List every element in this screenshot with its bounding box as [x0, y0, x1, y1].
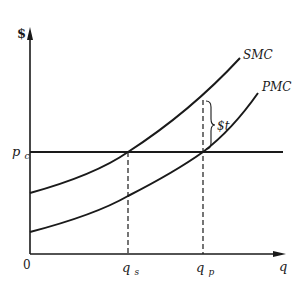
cost-curve-diagram: $ q 0 p c SMC PMC q s q p — [0, 0, 303, 284]
y-axis-label: $ — [17, 26, 26, 41]
qp-label-sub: p — [208, 267, 214, 277]
qp-label: q p — [196, 260, 214, 277]
pmc-curve: PMC — [30, 80, 292, 232]
smc-label: SMC — [243, 48, 273, 62]
x-axis-arrow-icon — [273, 251, 286, 257]
qs-label: q s — [122, 260, 139, 277]
tax-brace: $t — [206, 101, 230, 149]
tax-label-text: $t — [217, 119, 230, 133]
price-label-sub: c — [24, 151, 29, 161]
x-axis: q 0 — [23, 251, 287, 274]
pmc-label: PMC — [261, 80, 292, 94]
price-line: p c — [12, 144, 283, 161]
tax-label: $t — [217, 119, 230, 133]
price-label: p c — [12, 144, 30, 161]
y-axis: $ — [17, 26, 33, 254]
qs-label-main: q — [122, 260, 130, 275]
y-axis-arrow-icon — [27, 27, 33, 40]
qp-label-main: q — [196, 260, 204, 275]
qs-label-sub: s — [134, 267, 139, 277]
x-axis-label: q — [279, 259, 287, 274]
qs-marker: q s — [122, 152, 139, 277]
brace-icon — [206, 101, 215, 149]
origin-label: 0 — [23, 258, 31, 272]
price-label-main: p — [12, 144, 21, 159]
